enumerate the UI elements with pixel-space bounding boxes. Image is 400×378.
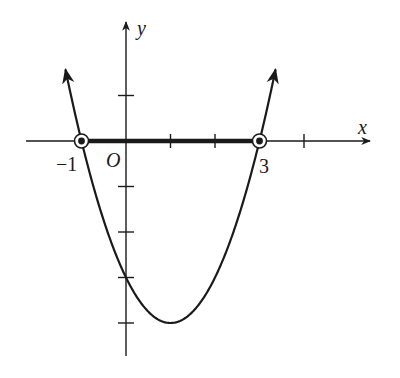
- figure: y x O −1 3: [0, 0, 400, 378]
- tick-label-minus-one: −1: [56, 154, 77, 174]
- root-dot: [256, 138, 263, 145]
- origin-label: O: [106, 150, 120, 170]
- y-axis-label: y: [137, 18, 146, 38]
- tick-label-three: 3: [259, 156, 269, 176]
- axis-ticks: [82, 96, 305, 324]
- x-axis-label: x: [358, 117, 367, 137]
- parabola-curve: [65, 70, 275, 323]
- root-dot: [78, 138, 85, 145]
- parabola-path: [65, 70, 275, 323]
- coordinate-plane: [0, 0, 400, 378]
